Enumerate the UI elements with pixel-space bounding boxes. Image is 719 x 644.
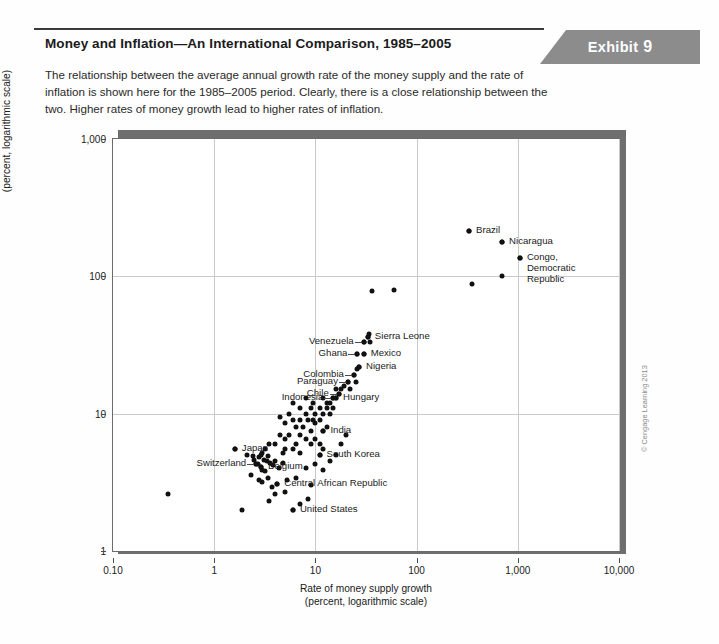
x-tick-mark — [315, 558, 316, 563]
data-point — [248, 472, 253, 477]
y-tick-mark — [101, 551, 106, 552]
data-point — [297, 417, 302, 422]
data-point-labeled — [232, 447, 237, 452]
data-point — [369, 289, 374, 294]
data-point — [303, 437, 308, 442]
data-point — [308, 405, 313, 410]
y-axis-title-line2: (percent, logarithmic scale) — [1, 70, 12, 192]
data-point — [290, 447, 295, 452]
point-label: Paraguay — [297, 376, 338, 387]
data-point — [353, 380, 358, 385]
data-point — [469, 281, 474, 286]
data-point-labeled — [275, 481, 280, 486]
label-leader-line — [324, 398, 331, 399]
data-point — [269, 485, 274, 490]
point-label: Congo, Democratic Republic — [527, 252, 576, 284]
header-rule — [34, 28, 544, 30]
x-tick-label: 0.10 — [103, 565, 122, 576]
data-point — [290, 417, 295, 422]
data-point — [313, 462, 318, 467]
data-point — [500, 274, 505, 279]
x-tick-mark — [518, 558, 519, 563]
data-point — [282, 489, 287, 494]
label-leader-line — [247, 464, 254, 465]
data-point — [297, 450, 302, 455]
x-gridline — [214, 139, 215, 551]
x-tick-mark — [619, 558, 620, 563]
data-point — [273, 492, 278, 497]
data-point-labeled — [290, 507, 295, 512]
point-label: Mexico — [371, 348, 401, 359]
x-gridline — [619, 139, 620, 551]
x-tick-label: 10,000 — [604, 565, 635, 576]
page-title: Money and Inflation—An International Com… — [45, 36, 451, 51]
x-tick-mark — [417, 558, 418, 563]
data-point — [281, 450, 286, 455]
data-point — [368, 340, 373, 345]
y-tick-mark — [101, 414, 106, 415]
x-tick-label: 1 — [211, 565, 217, 576]
data-point — [308, 442, 313, 447]
point-label: India — [330, 425, 351, 436]
point-label: Venezuela — [309, 336, 354, 347]
x-tick-mark — [113, 558, 114, 563]
data-point — [306, 496, 311, 501]
data-point-labeled — [365, 335, 370, 340]
data-point — [294, 442, 299, 447]
data-point — [267, 499, 272, 504]
data-point — [250, 454, 255, 459]
x-tick-mark — [214, 558, 215, 563]
data-point-labeled — [500, 239, 505, 244]
data-point-labeled — [346, 380, 351, 385]
data-point-labeled — [321, 428, 326, 433]
data-point — [273, 442, 278, 447]
data-point — [282, 437, 287, 442]
data-point-labeled — [361, 352, 366, 357]
data-point — [287, 432, 292, 437]
data-point — [308, 428, 313, 433]
point-label: Hungary — [343, 392, 379, 403]
data-point — [328, 411, 333, 416]
x-axis-title-line2: (percent, logarithmic scale) — [305, 596, 427, 607]
data-point — [317, 442, 322, 447]
point-label: Sierra Leone — [375, 331, 430, 342]
data-point — [321, 467, 326, 472]
x-axis-title: Rate of money supply growth (percent, lo… — [112, 582, 620, 609]
x-tick-label: 100 — [408, 565, 425, 576]
point-label: Indonesia — [282, 392, 324, 403]
data-point — [303, 466, 308, 471]
data-point — [317, 405, 322, 410]
data-point — [339, 442, 344, 447]
y-gridline — [113, 414, 619, 415]
copyright-notice: © Cengage Learning 2013 — [640, 365, 649, 452]
data-point — [265, 454, 270, 459]
y-axis-title: Rate of inflation per year (percent, log… — [0, 26, 14, 236]
scatter-plot-area: BrazilNicaraguaCongo, Democratic Republi… — [112, 138, 620, 552]
data-point-labeled — [467, 228, 472, 233]
data-point — [324, 405, 329, 410]
data-point — [321, 447, 326, 452]
point-label: Belgium — [268, 461, 303, 472]
exhibit-banner: Exhibit 9 — [540, 30, 700, 64]
point-label: Central African Republic — [284, 478, 387, 489]
data-point — [282, 421, 287, 426]
y-tick-mark — [101, 139, 106, 140]
data-point-labeled — [351, 373, 356, 378]
data-point — [331, 405, 336, 410]
data-point — [303, 411, 308, 416]
data-point — [306, 417, 311, 422]
data-point — [392, 287, 397, 292]
label-leader-line — [339, 382, 346, 383]
data-point — [287, 411, 292, 416]
x-gridline — [518, 139, 519, 551]
exhibit-page: Exhibit 9 Money and Inflation—An Interna… — [0, 0, 719, 644]
data-point — [313, 411, 318, 416]
label-leader-line — [330, 394, 337, 395]
x-gridline — [417, 139, 418, 551]
data-point — [278, 432, 283, 437]
point-label: Ghana — [319, 348, 348, 359]
data-point-labeled — [517, 256, 522, 261]
label-leader-line — [345, 375, 352, 376]
data-point — [294, 424, 299, 429]
data-point-labeled — [361, 340, 366, 345]
